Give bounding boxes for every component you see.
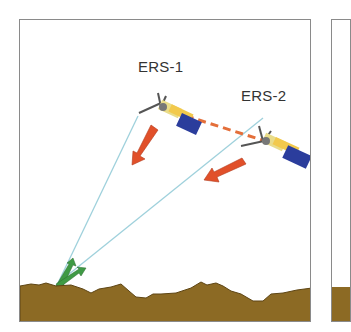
label-ers2: ERS-2	[241, 87, 286, 104]
diagram-panel-right-partial	[331, 19, 351, 322]
ground-terrain	[20, 282, 311, 322]
transmit-arrow-ers2	[204, 158, 246, 182]
ground-terrain-right	[332, 287, 350, 321]
satellite-ers2-icon	[241, 126, 311, 169]
satellite-ers1-icon	[139, 93, 202, 135]
transmit-arrow-ers1	[132, 125, 158, 165]
beam-line-ers2	[58, 118, 263, 283]
beam-line-ers1	[58, 116, 138, 283]
label-ers1: ERS-1	[138, 58, 183, 75]
